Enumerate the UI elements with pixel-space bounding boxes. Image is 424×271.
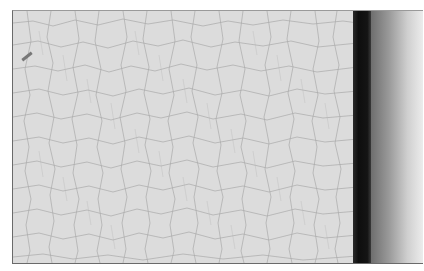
crack-pattern [13,11,358,263]
gray-gradient-background [371,11,423,263]
dark-torn-edge [353,11,371,263]
cracked-paint-surface [13,11,358,263]
cracked-paint-photo [12,10,423,264]
